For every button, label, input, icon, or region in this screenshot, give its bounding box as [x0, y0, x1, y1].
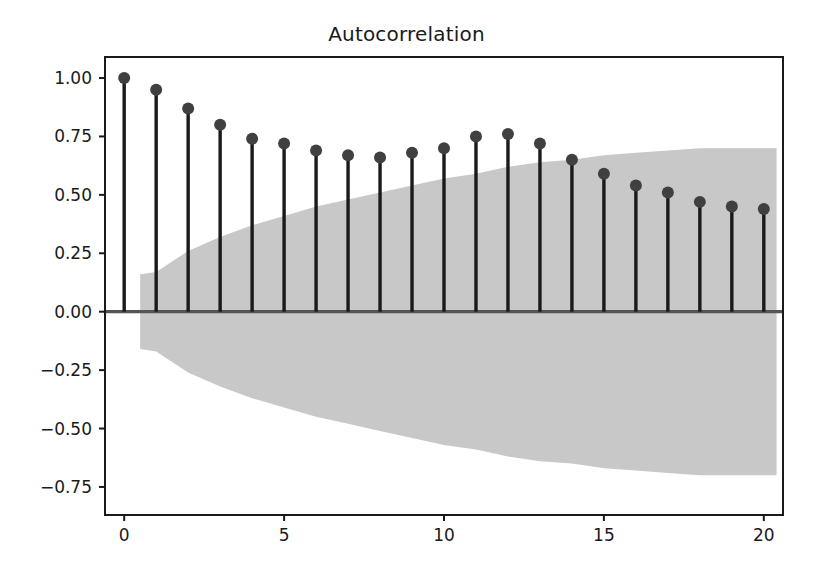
stem-marker — [150, 84, 162, 96]
y-tick-label: 0.00 — [54, 302, 92, 322]
autocorrelation-figure: Autocorrelation −0.75−0.50−0.250.000.250… — [0, 0, 813, 583]
y-tick-label: −0.75 — [40, 477, 92, 497]
stem-marker — [502, 128, 514, 140]
stem-marker — [246, 133, 258, 145]
x-tick-label: 20 — [753, 525, 775, 545]
stem-marker — [182, 102, 194, 114]
stem-marker — [566, 154, 578, 166]
autocorrelation-plot: −0.75−0.50−0.250.000.250.500.751.00 0510… — [0, 0, 813, 583]
y-tick-label: 1.00 — [54, 68, 92, 88]
y-tick-label: 0.50 — [54, 185, 92, 205]
y-tick-label: 0.75 — [54, 126, 92, 146]
stem-marker — [470, 130, 482, 142]
stem-marker — [310, 144, 322, 156]
stem-marker — [214, 119, 226, 131]
x-axis-ticks: 05101520 — [119, 515, 775, 545]
x-tick-label: 5 — [279, 525, 290, 545]
y-tick-label: −0.50 — [40, 419, 92, 439]
y-tick-label: 0.25 — [54, 243, 92, 263]
stem-marker — [662, 187, 674, 199]
stem-marker — [534, 137, 546, 149]
stem-marker — [374, 151, 386, 163]
stem-marker — [694, 196, 706, 208]
stem-marker — [758, 203, 770, 215]
stem-marker — [630, 180, 642, 192]
y-axis-ticks: −0.75−0.50−0.250.000.250.500.751.00 — [40, 68, 105, 497]
stem-marker — [406, 147, 418, 159]
x-tick-label: 10 — [433, 525, 455, 545]
stem-marker — [118, 72, 130, 84]
stem-marker — [598, 168, 610, 180]
stem-marker — [726, 201, 738, 213]
x-tick-label: 0 — [119, 525, 130, 545]
stem-marker — [438, 142, 450, 154]
y-tick-label: −0.25 — [40, 360, 92, 380]
stem-marker — [342, 149, 354, 161]
stem-marker — [278, 137, 290, 149]
x-tick-label: 15 — [593, 525, 615, 545]
